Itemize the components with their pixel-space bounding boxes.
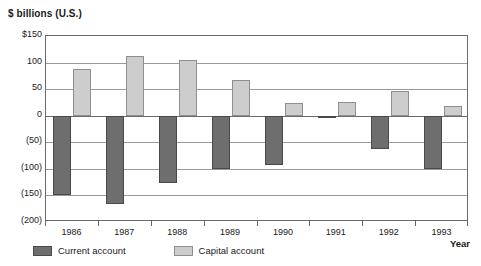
x-tick-label-1987: 1987 <box>102 227 146 237</box>
bar-group-1993 <box>416 36 469 220</box>
y-tick-label: (200) <box>0 216 42 225</box>
y-tick-label: 0 <box>0 110 42 119</box>
x-tick-mark <box>467 221 468 226</box>
x-tick-label-1990: 1990 <box>261 227 305 237</box>
x-tick-label-1991: 1991 <box>314 227 358 237</box>
x-axis: 19861987198819891990199119921993 <box>45 221 468 245</box>
y-axis-tick-labels: $150100500(50)(100)(150)(200) <box>0 35 42 221</box>
bar-group-1988 <box>152 36 205 220</box>
x-tick-mark <box>98 221 99 226</box>
legend-label: Capital account <box>199 245 264 256</box>
x-tick-label-1989: 1989 <box>208 227 252 237</box>
y-tick-label: (150) <box>0 189 42 198</box>
x-tick-mark <box>362 221 363 226</box>
bar-1992-current-account <box>371 116 389 149</box>
x-tick-label-1992: 1992 <box>367 227 411 237</box>
bar-group-1987 <box>99 36 152 220</box>
legend-swatch-current <box>33 246 52 256</box>
bar-1992-capital-account <box>391 91 409 115</box>
x-tick-mark <box>204 221 205 226</box>
bar-series-container <box>46 36 467 220</box>
y-axis-title: $ billions (U.S.) <box>8 8 82 19</box>
bar-1986-current-account <box>53 116 71 196</box>
y-tick-label: 50 <box>0 83 42 92</box>
bar-1988-capital-account <box>179 60 197 115</box>
bar-group-1991 <box>310 36 363 220</box>
bar-1987-current-account <box>106 116 124 205</box>
x-tick-mark <box>45 221 46 226</box>
bar-1988-current-account <box>159 116 177 183</box>
bar-group-1989 <box>205 36 258 220</box>
x-tick-mark <box>151 221 152 226</box>
bar-group-1992 <box>363 36 416 220</box>
x-axis-title: Year <box>450 238 470 249</box>
legend-item-current-account: Current account <box>33 245 126 256</box>
x-tick-label-1986: 1986 <box>49 227 93 237</box>
x-tick-label-1988: 1988 <box>155 227 199 237</box>
x-tick-mark <box>257 221 258 226</box>
bar-1991-capital-account <box>338 102 356 116</box>
plot-area <box>45 35 468 221</box>
bar-1989-current-account <box>212 116 230 169</box>
bar-1989-capital-account <box>232 80 250 116</box>
x-tick-mark <box>415 221 416 226</box>
y-tick-label: $150 <box>0 30 42 39</box>
bar-1990-capital-account <box>285 103 303 115</box>
bar-1986-capital-account <box>73 69 91 116</box>
bar-group-1986 <box>46 36 99 220</box>
legend-swatch-capital <box>174 246 193 256</box>
chart-figure: $ billions (U.S.) $150100500(50)(100)(15… <box>0 0 481 266</box>
y-tick-label: 100 <box>0 57 42 66</box>
legend-label: Current account <box>58 245 126 256</box>
bar-1993-capital-account <box>444 106 462 116</box>
bar-1993-current-account <box>424 116 442 169</box>
bar-1987-capital-account <box>126 56 144 116</box>
bar-group-1990 <box>258 36 311 220</box>
bar-1991-current-account <box>318 116 336 119</box>
chart-legend: Current accountCapital account <box>33 245 264 256</box>
legend-item-capital-account: Capital account <box>174 245 264 256</box>
x-tick-mark <box>309 221 310 226</box>
y-tick-label: (50) <box>0 136 42 145</box>
bar-1990-current-account <box>265 116 283 165</box>
y-tick-label: (100) <box>0 163 42 172</box>
x-tick-label-1993: 1993 <box>420 227 464 237</box>
